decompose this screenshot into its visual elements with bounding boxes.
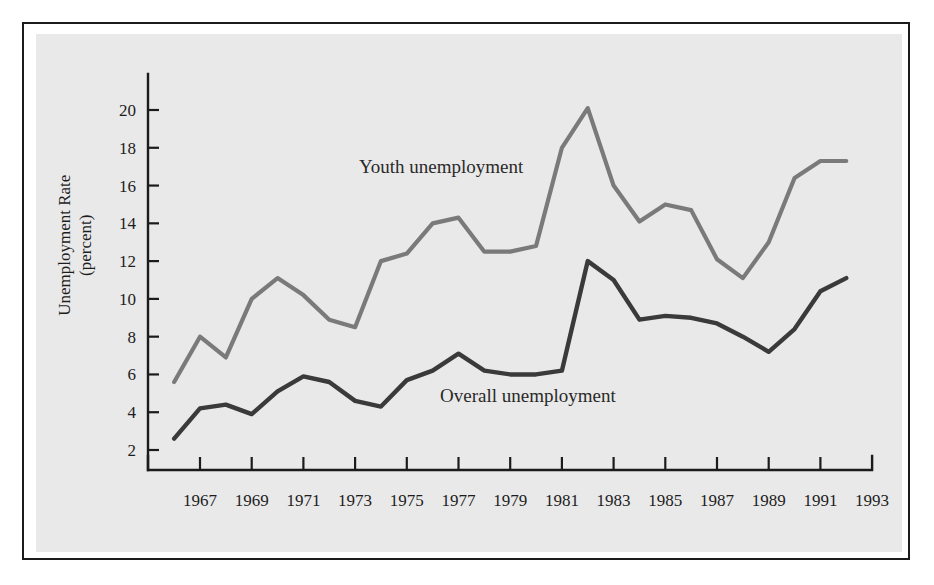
y-tick-label-6: 6 — [102, 366, 136, 383]
y-axis-title: Unemployment Rate (percent) — [46, 0, 106, 490]
x-tick-label-1969: 1969 — [227, 492, 277, 509]
y-tick-label-4: 4 — [102, 404, 136, 421]
x-tick-label-1973: 1973 — [330, 492, 380, 509]
y-tick-label-10: 10 — [102, 291, 136, 308]
x-tick-label-1975: 1975 — [382, 492, 432, 509]
figure-container: 2468101214161820 19671969197119731975197… — [0, 0, 934, 585]
x-tick-label-1979: 1979 — [485, 492, 535, 509]
y-tick-label-20: 20 — [102, 102, 136, 119]
x-tick-label-1987: 1987 — [692, 492, 742, 509]
y-tick-label-8: 8 — [102, 329, 136, 346]
x-tick-label-1985: 1985 — [640, 492, 690, 509]
y-tick-label-2: 2 — [102, 442, 136, 459]
x-tick-label-1971: 1971 — [278, 492, 328, 509]
y-tick-label-12: 12 — [102, 253, 136, 270]
y-tick-label-16: 16 — [102, 178, 136, 195]
series-label-youth: Youth unemployment — [359, 156, 523, 178]
x-tick-label-1989: 1989 — [744, 492, 794, 509]
series-label-overall: Overall unemployment — [440, 385, 616, 407]
x-tick-label-1977: 1977 — [434, 492, 484, 509]
x-tick-label-1993: 1993 — [847, 492, 897, 509]
x-tick-label-1991: 1991 — [795, 492, 845, 509]
y-axis-title-line2: (percent) — [76, 174, 97, 315]
y-tick-label-18: 18 — [102, 140, 136, 157]
x-tick-label-1981: 1981 — [537, 492, 587, 509]
y-axis-title-line1: Unemployment Rate — [56, 174, 75, 315]
x-tick-label-1967: 1967 — [175, 492, 225, 509]
y-tick-label-14: 14 — [102, 215, 136, 232]
x-tick-label-1983: 1983 — [589, 492, 639, 509]
figure-plate — [36, 34, 902, 552]
